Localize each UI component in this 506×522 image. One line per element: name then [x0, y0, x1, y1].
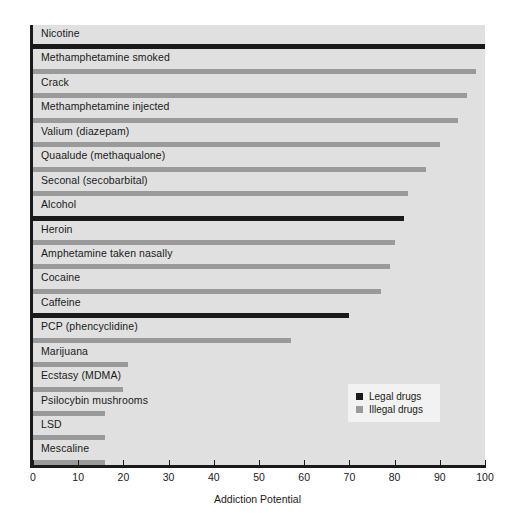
x-tick-label: 30 [163, 471, 175, 483]
legend-item-legal: Legal drugs [356, 390, 432, 403]
x-tick-mark [78, 460, 79, 468]
bar-label: Cocaine [41, 271, 80, 283]
bar-row: Methamphetamine smoked [33, 49, 485, 73]
bar-label: Ecstasy (MDMA) [41, 369, 121, 381]
bar-label: Alcohol [41, 198, 76, 210]
x-tick-label: 10 [72, 471, 84, 483]
bar-row: Caffeine [33, 294, 485, 318]
x-tick-label: 100 [476, 471, 494, 483]
bar-row: Marijuana [33, 343, 485, 367]
x-tick-mark [214, 460, 215, 468]
bar-row: Alcohol [33, 196, 485, 220]
bar-label: Psilocybin mushrooms [41, 394, 148, 406]
x-tick-label: 50 [253, 471, 265, 483]
bar-label: Marijuana [41, 345, 88, 357]
bar-label: Methamphetamine injected [41, 100, 169, 112]
bar-label: Seconal (secobarbital) [41, 174, 148, 186]
x-tick-label: 20 [118, 471, 130, 483]
legend-swatch-legal [356, 393, 363, 400]
x-tick-mark [440, 460, 441, 468]
x-tick-mark [123, 460, 124, 468]
x-tick-label: 70 [344, 471, 356, 483]
bar-row: Valium (diazepam) [33, 123, 485, 147]
bar-row: Quaalude (methaqualone) [33, 147, 485, 171]
bar-label: Crack [41, 76, 69, 88]
x-tick-mark [33, 460, 34, 468]
x-tick-mark [395, 460, 396, 468]
bar-fill [33, 460, 105, 465]
x-axis-title: Addiction Potential [30, 493, 485, 505]
bar-row: Cocaine [33, 269, 485, 293]
x-tick-label: 90 [434, 471, 446, 483]
bar-label: Mescaline [41, 442, 89, 454]
legend-item-illegal: Illegal drugs [356, 403, 432, 416]
x-tick-label: 40 [208, 471, 220, 483]
bar-row: Nicotine [33, 25, 485, 49]
bar-label: Quaalude (methaqualone) [41, 149, 165, 161]
bar-label: Heroin [41, 223, 73, 235]
bar-row: Crack [33, 74, 485, 98]
bar-label: PCP (phencyclidine) [41, 320, 138, 332]
x-tick-label: 80 [389, 471, 401, 483]
x-tick-label: 60 [298, 471, 310, 483]
bar-label: Methamphetamine smoked [41, 51, 170, 63]
bar-label: Valium (diazepam) [41, 125, 129, 137]
x-tick-mark [169, 460, 170, 468]
bar-row: Methamphetamine injected [33, 98, 485, 122]
x-axis: Addiction Potential 01020304050607080901… [30, 468, 485, 498]
x-tick-mark [349, 460, 350, 468]
bar-row: PCP (phencyclidine) [33, 318, 485, 342]
x-tick-mark [485, 460, 486, 468]
addiction-potential-bar-chart: NicotineMethamphetamine smokedCrackMetha… [0, 0, 506, 522]
legend-swatch-illegal [356, 406, 363, 413]
legend-label: Legal drugs [369, 391, 421, 402]
x-tick-mark [259, 460, 260, 468]
x-tick-label: 0 [30, 471, 36, 483]
bar-row: Heroin [33, 221, 485, 245]
bar-label: Amphetamine taken nasally [41, 247, 173, 259]
bar-label: LSD [41, 418, 62, 430]
bar-row: Seconal (secobarbital) [33, 172, 485, 196]
bar-row: Amphetamine taken nasally [33, 245, 485, 269]
legend: Legal drugsIllegal drugs [348, 384, 440, 422]
bar-label: Nicotine [41, 27, 80, 39]
x-tick-mark [304, 460, 305, 468]
bar-label: Caffeine [41, 296, 81, 308]
legend-label: Illegal drugs [369, 404, 423, 415]
